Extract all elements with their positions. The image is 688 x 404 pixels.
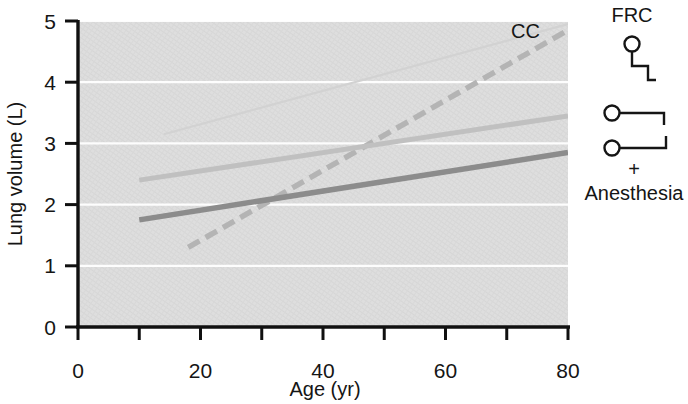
y-axis-tick-labels: 012345 <box>44 10 56 339</box>
chart-svg: CC 012345 020406080 Lung volume (L) Age … <box>0 0 688 404</box>
x-axis-ticks <box>78 327 568 340</box>
x-tick-label-0: 0 <box>72 359 84 382</box>
x-tick-label-60: 60 <box>434 359 457 382</box>
y-tick-label-0: 0 <box>44 316 56 339</box>
y-tick-label-4: 4 <box>44 71 56 94</box>
y-axis-title: Lung volume (L) <box>4 102 26 247</box>
y-tick-label-3: 3 <box>44 132 56 155</box>
legend-title-frc: FRC <box>611 4 652 26</box>
legend-marker-circle-frc <box>625 37 640 52</box>
y-tick-label-5: 5 <box>44 10 56 33</box>
legend-label-anesthesia: Anesthesia <box>585 182 685 204</box>
x-tick-label-80: 80 <box>556 359 579 382</box>
y-tick-label-1: 1 <box>44 254 56 277</box>
y-tick-label-2: 2 <box>44 193 56 216</box>
legend-marker-circle-middle <box>605 106 620 121</box>
lung-volume-age-figure: CC 012345 020406080 Lung volume (L) Age … <box>0 0 688 404</box>
plot-area: CC <box>78 20 568 327</box>
legend: FRC + Anesthesia <box>585 4 685 204</box>
legend-plus-sign: + <box>628 158 640 180</box>
legend-leader-line-middle <box>620 113 664 125</box>
legend-leader-line-frc <box>632 52 656 80</box>
legend-callout-anesthesia[interactable] <box>605 136 667 156</box>
x-axis-title: Age (yr) <box>289 378 360 400</box>
plot-background <box>78 21 568 327</box>
legend-callout-middle[interactable] <box>605 106 665 126</box>
x-tick-label-20: 20 <box>189 359 212 382</box>
legend-leader-line-anesthesia <box>620 136 666 148</box>
series-label-cc: CC <box>511 20 540 42</box>
legend-callout-frc[interactable] <box>625 37 657 81</box>
legend-marker-circle-anesthesia <box>605 141 620 156</box>
y-axis-ticks <box>65 21 78 327</box>
